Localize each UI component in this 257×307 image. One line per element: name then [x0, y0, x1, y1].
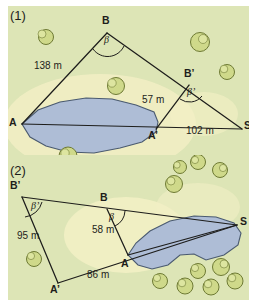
vertex-label-S: S [244, 119, 249, 131]
vertex-label-B-prime: B’ [10, 179, 21, 191]
bush-icon [38, 30, 54, 45]
vertex-label-B: B [100, 191, 108, 203]
vertex-label-S: S [240, 215, 247, 227]
measure-label-138m: 138 m [34, 60, 62, 71]
vertex-label-A-prime: A’ [148, 129, 158, 141]
angle-label-beta-prime: β’ [31, 200, 39, 211]
bush-icon [191, 264, 206, 279]
vertex-label-B: B [102, 14, 110, 26]
bush-icon [174, 161, 187, 174]
bush-icon [213, 259, 230, 276]
bush-icon [220, 65, 235, 80]
measure-label-95m: 95 m [17, 230, 39, 241]
vertex-label-A: A [121, 257, 129, 269]
measure-label-58m: 58 m [92, 224, 114, 235]
panel-number-1: (1) [10, 8, 26, 23]
panel-2-canvas [8, 155, 249, 300]
panel-number-2: (2) [10, 163, 26, 178]
bush-icon [191, 155, 206, 170]
angle-label-beta-prime: β’ [187, 86, 195, 97]
panel-1: (1) A B S A’ B’ 138 m 57 m 102 m β β’ [8, 6, 249, 155]
bush-icon [177, 278, 193, 294]
angle-label-beta: β [109, 211, 114, 222]
vertex-label-B-prime: B’ [184, 67, 195, 79]
bush-icon [191, 33, 210, 52]
bush-icon [153, 274, 168, 289]
survey-figure: (1) A B S A’ B’ 138 m 57 m 102 m β β’ [0, 0, 257, 307]
vertex-label-A-prime: A’ [50, 283, 60, 295]
bush-icon [227, 273, 243, 289]
measure-label-102m: 102 m [186, 125, 214, 136]
panel-2: (2) B’ B S A A’ 95 m 58 m 86 m β’ β [8, 155, 249, 300]
bush-icon [27, 252, 42, 267]
angle-label-beta: β [104, 34, 109, 45]
bush-icon [213, 163, 228, 178]
bush-icon [108, 78, 125, 95]
measure-label-57m: 57 m [142, 94, 164, 105]
bush-icon [166, 176, 183, 193]
bush-icon [203, 279, 219, 295]
vertex-label-A: A [9, 116, 17, 128]
measure-label-86m: 86 m [87, 269, 109, 280]
